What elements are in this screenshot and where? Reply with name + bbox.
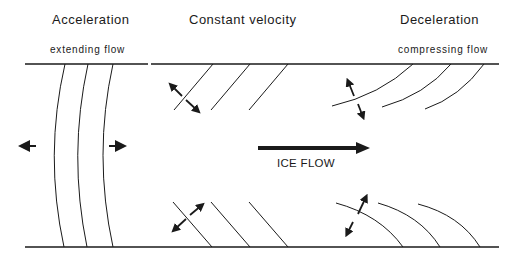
glacier-margins (25, 64, 499, 247)
ice-flow-arrow-icon (258, 142, 370, 154)
compressing-crevasses (332, 64, 484, 247)
constant-velocity-stress-arrows (171, 85, 202, 230)
extending-crevasses (54, 64, 113, 247)
constant-velocity-crevasses (173, 64, 288, 247)
glacier-flow-diagram (0, 0, 518, 261)
compression-stress-arrows (347, 81, 366, 234)
